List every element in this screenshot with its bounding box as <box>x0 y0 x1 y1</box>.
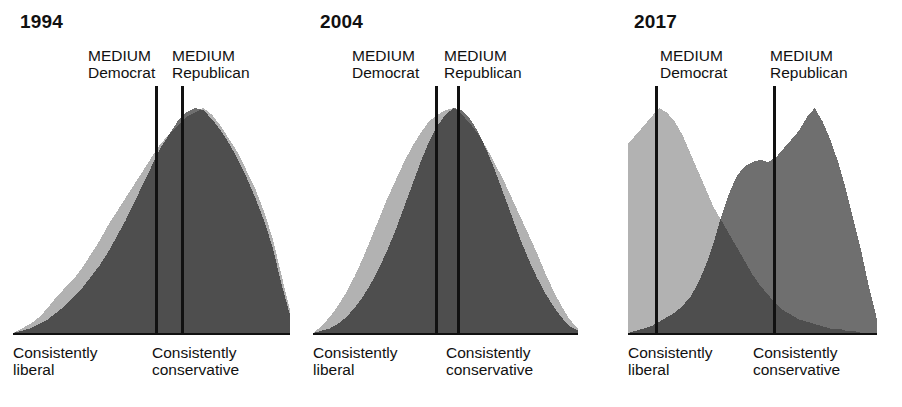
median-label-line1: MEDIUM <box>352 48 419 65</box>
median-line-democrat <box>155 86 158 333</box>
median-label-republican: MEDIUMRepublican <box>770 48 848 81</box>
axis-end-label-line2: liberal <box>628 361 712 378</box>
panel-baseline <box>628 333 877 335</box>
axis-end-label-left: Consistentlyliberal <box>628 344 712 378</box>
median-label-line2: Republican <box>444 65 522 82</box>
median-label-democrat: MEDIUMDemocrat <box>88 48 155 81</box>
axis-end-label-line2: conservative <box>753 361 840 378</box>
axis-end-label-line2: liberal <box>13 361 97 378</box>
axis-end-label-line1: Consistently <box>152 344 239 361</box>
median-label-line1: MEDIUM <box>770 48 848 65</box>
axis-end-label-line1: Consistently <box>13 344 97 361</box>
median-line-democrat <box>655 86 658 333</box>
axis-end-label-left: Consistentlyliberal <box>313 344 397 378</box>
panel-year-label: 2017 <box>634 11 677 33</box>
axis-end-label-left: Consistentlyliberal <box>13 344 97 378</box>
median-label-democrat: MEDIUMDemocrat <box>660 48 727 81</box>
median-label-line2: Democrat <box>660 65 727 82</box>
axis-end-label-line2: conservative <box>446 361 533 378</box>
axis-end-label-right: Consistentlyconservative <box>753 344 840 378</box>
median-label-republican: MEDIUMRepublican <box>444 48 522 81</box>
axis-end-label-line1: Consistently <box>753 344 840 361</box>
panel-baseline <box>13 333 290 335</box>
median-line-republican <box>181 86 184 333</box>
axis-end-label-line1: Consistently <box>313 344 397 361</box>
distribution-area-chart <box>13 108 290 333</box>
panel-2004: 2004MEDIUMDemocratMEDIUMRepublicanConsis… <box>313 0 578 407</box>
axis-end-label-right: Consistentlyconservative <box>152 344 239 378</box>
median-label-line2: Republican <box>770 65 848 82</box>
median-line-democrat <box>435 86 438 333</box>
panel-year-label: 1994 <box>20 11 63 33</box>
median-label-democrat: MEDIUMDemocrat <box>352 48 419 81</box>
median-label-line1: MEDIUM <box>172 48 250 65</box>
axis-end-label-line1: Consistently <box>628 344 712 361</box>
political-polarization-figure: 1994MEDIUMDemocratMEDIUMRepublicanConsis… <box>0 0 902 407</box>
axis-end-label-right: Consistentlyconservative <box>446 344 533 378</box>
median-label-republican: MEDIUMRepublican <box>172 48 250 81</box>
axis-end-label-line2: liberal <box>313 361 397 378</box>
axis-end-label-line1: Consistently <box>446 344 533 361</box>
median-label-line1: MEDIUM <box>88 48 155 65</box>
median-label-line2: Democrat <box>88 65 155 82</box>
panel-2017: 2017MEDIUMDemocratMEDIUMRepublicanConsis… <box>628 0 877 407</box>
panel-baseline <box>313 333 578 335</box>
median-label-line2: Democrat <box>352 65 419 82</box>
panel-year-label: 2004 <box>320 11 363 33</box>
panel-1994: 1994MEDIUMDemocratMEDIUMRepublicanConsis… <box>13 0 290 407</box>
median-label-line1: MEDIUM <box>444 48 522 65</box>
median-line-republican <box>457 86 460 333</box>
distribution-area-chart <box>628 108 877 333</box>
distribution-area-chart <box>313 108 578 333</box>
median-label-line1: MEDIUM <box>660 48 727 65</box>
median-label-line2: Republican <box>172 65 250 82</box>
axis-end-label-line2: conservative <box>152 361 239 378</box>
median-line-republican <box>773 86 776 333</box>
